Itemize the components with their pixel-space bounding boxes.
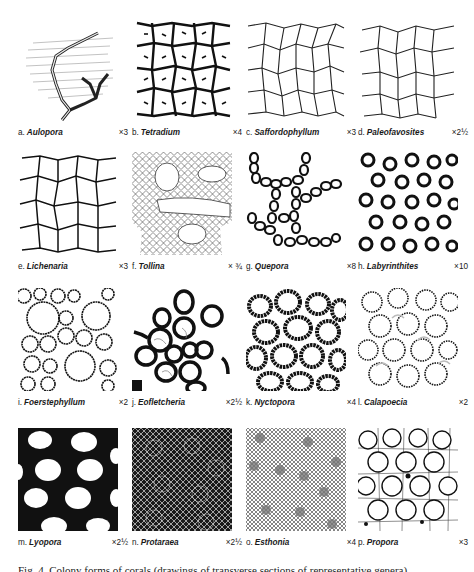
panel-letter: k.: [246, 398, 252, 407]
figure-caption: Fig. 4. Colony forms of corals (drawings…: [18, 562, 458, 572]
panel-n-image: [132, 428, 232, 531]
panel-d-image: [358, 18, 458, 121]
magnification: ×4: [347, 398, 356, 407]
panel-letter: o.: [246, 538, 253, 547]
genus-name: Aulopora: [27, 128, 63, 137]
panel-letter: n.: [132, 538, 139, 547]
panel-p-image: [358, 428, 458, 531]
panel-j-image: [132, 288, 232, 391]
magnification: ×2: [119, 398, 128, 407]
panel-letter: m.: [18, 538, 27, 547]
genus-name: Labyrinthites: [367, 262, 418, 271]
panel-letter: b.: [132, 128, 139, 137]
panel-letter: i.: [18, 398, 22, 407]
panel-letter: a.: [18, 128, 25, 137]
magnification: ×2½: [226, 398, 242, 407]
panel-b-image: [132, 18, 232, 121]
panel-letter: p.: [358, 538, 365, 547]
genus-name: Quepora: [255, 262, 289, 271]
panel-letter: f.: [132, 262, 137, 271]
panel-g-image: [246, 152, 346, 255]
panel-letter: d.: [358, 128, 365, 137]
genus-name: Eofletcheria: [138, 398, 185, 407]
panel-o-image: [246, 428, 346, 531]
magnification: ×2: [459, 398, 468, 407]
panel-c-image: [246, 18, 346, 121]
genus-name: Propora: [367, 538, 398, 547]
panel-letter: g.: [246, 262, 253, 271]
genus-name: Protaraea: [141, 538, 179, 547]
genus-name: Calapoecia: [364, 398, 407, 407]
magnification: ×2½: [226, 538, 242, 547]
panel-f-image: [132, 152, 232, 255]
panel-k-image: [246, 288, 346, 391]
genus-name: Saffordophyllum: [254, 128, 319, 137]
panel-e-image: [18, 152, 118, 255]
genus-name: Esthonia: [255, 538, 290, 547]
magnification: ×4: [233, 128, 242, 137]
magnification: ×8: [347, 262, 356, 271]
panel-a-image: [18, 18, 118, 121]
panel-l-image: [358, 288, 458, 391]
genus-name: Nyctopora: [254, 398, 295, 407]
genus-name: Lichenaria: [27, 262, 68, 271]
magnification: ×3: [119, 128, 128, 137]
magnification: × ¾: [228, 262, 242, 271]
genus-name: Tollina: [139, 262, 165, 271]
panel-h-image: [358, 152, 458, 255]
panel-letter: e.: [18, 262, 25, 271]
panel-letter: c.: [246, 128, 252, 137]
magnification: ×2½: [112, 538, 128, 547]
magnification: ×3: [119, 262, 128, 271]
genus-name: Tetradium: [141, 128, 180, 137]
magnification: ×4: [347, 538, 356, 547]
panel-i-image: [18, 288, 118, 391]
magnification: ×3: [347, 128, 356, 137]
magnification: ×2½: [452, 128, 468, 137]
panel-letter: h.: [358, 262, 365, 271]
panel-letter: l.: [358, 398, 362, 407]
panel-letter: j.: [132, 398, 136, 407]
magnification: ×3: [459, 538, 468, 547]
panel-m-image: [18, 428, 118, 531]
genus-name: Foerstephyllum: [24, 398, 85, 407]
genus-name: Paleofavosites: [367, 128, 424, 137]
magnification: ×10: [454, 262, 468, 271]
genus-name: Lyopora: [29, 538, 61, 547]
